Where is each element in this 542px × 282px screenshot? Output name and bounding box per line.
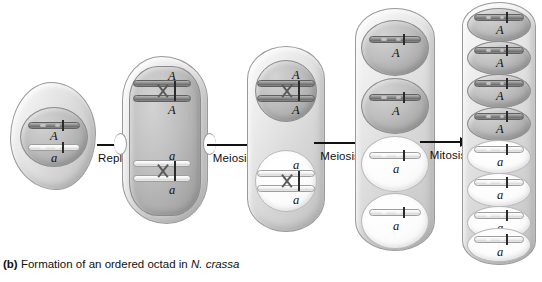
chromosome-A (369, 36, 421, 43)
centromere (155, 161, 169, 181)
chromosome-a (369, 209, 421, 216)
allele-label-a: a (293, 194, 299, 207)
stage-meiosis-two-cell: A A a a (355, 8, 435, 251)
allele-label-a: a (497, 156, 503, 169)
allele-label-a: a (497, 189, 503, 202)
arrow-shaft (420, 141, 462, 143)
meiosis-octad-diagram: A a Replication A A (0, 0, 542, 282)
allele-label-a: a (293, 159, 299, 172)
figure-caption: (b) Formation of an ordered octad in N. … (3, 258, 240, 270)
caption-tag: (b) (3, 258, 18, 270)
centromere-tick (506, 45, 508, 56)
allele-label-A: A (168, 70, 176, 83)
allele-label-A: A (168, 104, 176, 117)
allele-label-a: a (51, 152, 57, 165)
replicated-chromosome-a (257, 170, 315, 192)
centromere-tick (506, 177, 508, 188)
centromere-tick (506, 78, 508, 89)
allele-label-A: A (50, 130, 58, 143)
centromere (279, 171, 293, 191)
allele-label-A: A (496, 123, 504, 136)
centromere-tick (62, 120, 64, 131)
allele-label-A: A (496, 24, 504, 37)
centromere-tick (298, 171, 300, 191)
allele-label-A: A (392, 105, 400, 118)
chromosome-A (474, 80, 524, 87)
centromere (155, 81, 169, 101)
centromere-tick (506, 12, 508, 23)
replicated-chromosome-a (133, 160, 191, 182)
allele-label-a: a (393, 163, 399, 176)
chromosome-a (474, 146, 524, 153)
chromosome-A (369, 94, 421, 101)
allele-label-a: a (393, 220, 399, 233)
replicated-chromosome-A (133, 80, 191, 102)
allele-label-a: a (497, 246, 503, 259)
centromere-tick (403, 92, 405, 103)
chromosome-A (28, 122, 80, 129)
stage-octad-cell: A A A A a a a a (462, 2, 536, 265)
allele-label-A: A (292, 104, 300, 117)
centromere-tick (506, 210, 508, 221)
centromere-tick (506, 234, 508, 245)
centromere-tick (506, 111, 508, 122)
caption-text: Formation of an ordered octad in (21, 258, 188, 270)
allele-label-A: A (496, 57, 504, 70)
allele-label-a: a (169, 184, 175, 197)
centromere-tick (62, 142, 64, 153)
chromosome-A (474, 14, 524, 21)
allele-label-A: A (496, 90, 504, 103)
centromere-tick (298, 81, 300, 101)
chromosome-a (474, 212, 524, 219)
chromosome-a (474, 236, 524, 243)
stage-parent-cell: A a (10, 82, 96, 190)
centromere-tick (174, 81, 176, 101)
arrow-shaft (207, 144, 251, 146)
chromosome-a (28, 144, 80, 151)
replicated-chromosome-A (257, 80, 315, 102)
arrow-shaft (314, 142, 358, 144)
centromere-tick (403, 150, 405, 161)
stage-replicated-cell: A A a a (122, 56, 208, 224)
chromosome-A (474, 113, 524, 120)
centromere-tick (506, 144, 508, 155)
chromosome-A (474, 47, 524, 54)
centromere-tick (174, 161, 176, 181)
allele-label-A: A (292, 69, 300, 82)
caption-species: N. crassa (191, 258, 240, 270)
chromosome-a (369, 152, 421, 159)
centromere (279, 81, 293, 101)
allele-label-a: a (169, 150, 175, 163)
chromosome-a (474, 179, 524, 186)
centromere-tick (403, 34, 405, 45)
allele-label-A: A (392, 47, 400, 60)
centromere-tick (403, 207, 405, 218)
